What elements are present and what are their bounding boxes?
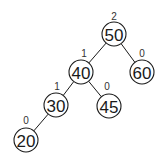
tree-node-30: 30 1 [44, 81, 68, 117]
balance-factor: 0 [23, 115, 29, 126]
node-value: 40 [72, 64, 91, 83]
balance-factor: 1 [54, 81, 60, 92]
node-value: 45 [100, 98, 119, 117]
node-value: 60 [133, 64, 152, 83]
tree-svg: 50 2 40 1 60 0 30 1 45 0 [0, 0, 163, 163]
edge-40-30 [63, 82, 74, 96]
balance-factor: 0 [139, 48, 145, 59]
balance-factor: 0 [104, 81, 110, 92]
node-value: 30 [47, 97, 66, 116]
tree-diagram: 50 2 40 1 60 0 30 1 45 0 [0, 0, 163, 163]
tree-node-60: 60 0 [130, 48, 154, 84]
edge-50-40 [89, 43, 106, 63]
node-value: 20 [17, 132, 36, 151]
balance-factor: 2 [111, 11, 117, 22]
edge-30-20 [34, 114, 48, 131]
edge-50-60 [121, 44, 135, 63]
tree-node-50: 50 2 [102, 11, 126, 46]
nodes-group: 50 2 40 1 60 0 30 1 45 0 [14, 11, 154, 152]
balance-factor: 1 [81, 48, 87, 59]
node-value: 50 [105, 26, 124, 45]
tree-node-40: 40 1 [69, 48, 93, 84]
tree-node-45: 45 0 [97, 81, 121, 118]
edge-40-45 [89, 81, 102, 96]
tree-node-20: 20 0 [14, 115, 38, 152]
